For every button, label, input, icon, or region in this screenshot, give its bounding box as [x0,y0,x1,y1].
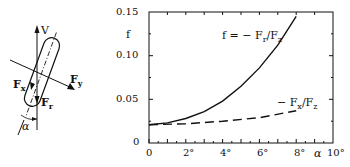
solid-label-mid: /F [266,29,277,42]
y-tick-label: 0.15 [116,7,138,17]
x-tick-label: 10° [327,148,345,158]
dashed-label-main: − F [277,96,297,109]
y-tick-label: 0.10 [116,50,138,60]
dashed-label-sub2: z [313,102,317,111]
x-tick-label: 0 [146,148,152,158]
x-tick-label: 4° [220,148,231,158]
x-axis-label: α [314,148,321,159]
x-tick-label: 8° [294,148,305,158]
y-tick-label: 0 [133,137,139,147]
solid-label-sub2: z [278,35,282,44]
solid-curve-label: f = − Fr/Fz [222,30,282,44]
chart-plot [0,0,350,167]
y-axis-label: f [126,29,130,40]
dashed-curve-label: − Fx/Fz [277,97,317,111]
x-tick-label: 2° [183,148,194,158]
y-tick-label: 0.05 [116,94,138,104]
x-tick-label: 6° [257,148,268,158]
solid-label-main: f = − F [222,29,263,42]
dashed-label-mid: /F [302,96,313,109]
